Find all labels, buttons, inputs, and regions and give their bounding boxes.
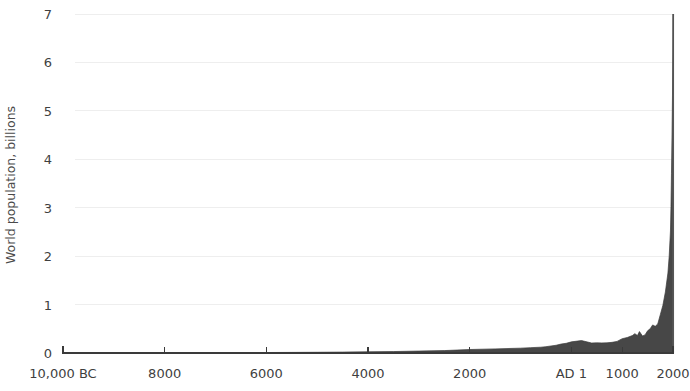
x-tick-label-2: 6000 <box>250 366 283 381</box>
population-area-series <box>63 14 674 353</box>
x-tick-label-1: 8000 <box>148 366 181 381</box>
x-axis-tick-labels: 10,000 BC8000600040002000AD 110002000 <box>29 366 689 381</box>
y-tick-label-3: 3 <box>44 201 52 216</box>
x-tick-label-3: 4000 <box>351 366 384 381</box>
y-axis-tick-labels: 01234567 <box>44 7 52 361</box>
x-tick-label-0: 10,000 BC <box>29 366 96 381</box>
x-tick-label-5: AD 1 <box>556 366 587 381</box>
y-tick-label-2: 2 <box>44 249 52 264</box>
y-tick-label-4: 4 <box>44 152 52 167</box>
chart-canvas: 01234567 10,000 BC8000600040002000AD 110… <box>0 0 690 391</box>
y-tick-label-5: 5 <box>44 104 52 119</box>
y-tick-label-7: 7 <box>44 7 52 22</box>
world-population-chart: 01234567 10,000 BC8000600040002000AD 110… <box>0 0 690 391</box>
gridline-group <box>75 14 673 305</box>
x-tick-label-4: 2000 <box>453 366 486 381</box>
x-tick-label-7: 2000 <box>656 366 689 381</box>
x-tick-label-6: 1000 <box>606 366 639 381</box>
y-axis-title: World population, billions <box>3 106 18 264</box>
y-tick-label-1: 1 <box>44 298 52 313</box>
y-tick-label-0: 0 <box>44 346 52 361</box>
population-area-path <box>63 14 674 353</box>
y-tick-label-6: 6 <box>44 55 52 70</box>
